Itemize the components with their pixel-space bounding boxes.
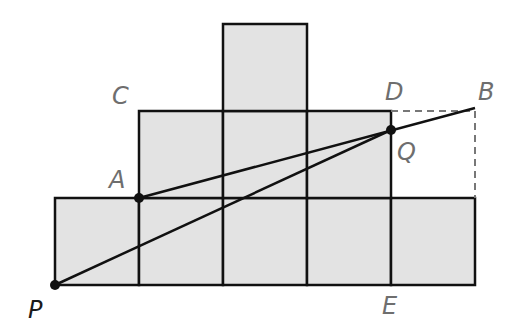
square: [391, 198, 475, 285]
point-p-dot: [50, 280, 60, 290]
label-b: B: [478, 78, 494, 106]
middle-row-squares: [139, 111, 391, 198]
label-d: D: [385, 78, 403, 106]
square: [223, 111, 307, 198]
square: [307, 198, 391, 285]
square: [223, 198, 307, 285]
label-a: A: [107, 166, 125, 194]
top-row-squares: [223, 24, 307, 111]
geometry-diagram: C D B Q A E P: [0, 0, 514, 334]
label-e: E: [382, 292, 398, 320]
label-p: P: [28, 296, 43, 324]
point-a-dot: [134, 193, 144, 203]
square: [223, 24, 307, 111]
label-c: C: [112, 82, 129, 110]
bottom-row-squares: [55, 198, 475, 285]
square: [307, 111, 391, 198]
label-q: Q: [397, 138, 416, 166]
square: [139, 111, 223, 198]
square: [55, 198, 139, 285]
point-q-dot: [386, 125, 396, 135]
